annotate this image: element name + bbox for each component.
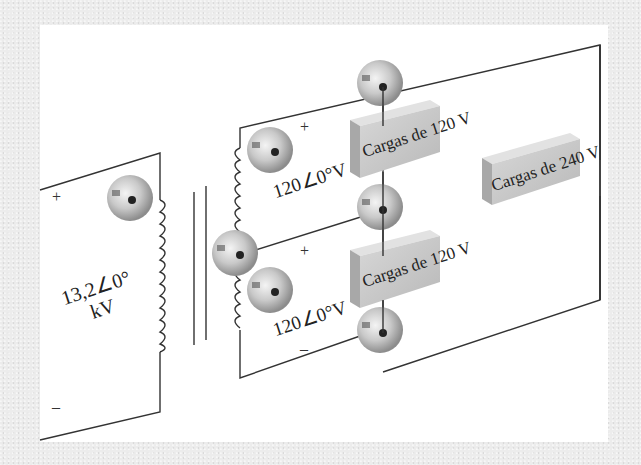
transformer-core [194, 186, 206, 345]
upper-plus-sign: + [300, 118, 309, 136]
lower-plus-sign: + [300, 242, 309, 260]
terminal-primary [107, 175, 153, 221]
primary-minus-sign: – [52, 398, 60, 416]
terminal-middle [357, 184, 403, 230]
lower-minus-sign: – [300, 340, 308, 358]
terminal-top [357, 60, 403, 106]
circuit-diagram [0, 0, 641, 465]
terminal-bottom [357, 307, 403, 353]
terminal-upper-left [247, 127, 293, 173]
terminal-lower-left [247, 267, 293, 313]
terminal-center-tap [212, 230, 258, 276]
primary-plus-sign: + [52, 188, 61, 206]
